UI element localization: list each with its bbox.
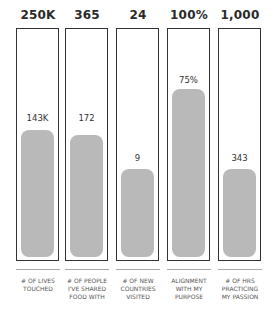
goal-box: 143K — [16, 28, 59, 261]
actual-value: 9 — [111, 153, 164, 163]
goal-box: 9 — [116, 28, 159, 261]
divider — [167, 269, 211, 270]
actual-bar — [70, 135, 103, 257]
actual-bar — [121, 169, 154, 257]
actual-value: 343 — [213, 153, 266, 163]
divider — [116, 269, 160, 270]
actual-bar — [223, 169, 256, 257]
category-label: # OF HRS PRACTICING MY PASSION — [210, 277, 270, 301]
divider — [65, 269, 109, 270]
actual-value: 172 — [60, 113, 113, 123]
goal-box: 75% — [167, 28, 210, 261]
label-line: # OF HRS — [210, 277, 270, 285]
goal-box: 172 — [65, 28, 108, 261]
goal-box: 343 — [218, 28, 261, 261]
label-line: MY PASSION — [210, 293, 270, 301]
actual-bar — [21, 130, 54, 257]
divider — [16, 269, 60, 270]
divider — [218, 269, 262, 270]
actual-bar — [172, 89, 205, 257]
actual-value: 75% — [162, 75, 215, 85]
label-line: PRACTICING — [210, 285, 270, 293]
goal-total: 1,000 — [208, 8, 272, 22]
actual-value: 143K — [11, 113, 64, 123]
